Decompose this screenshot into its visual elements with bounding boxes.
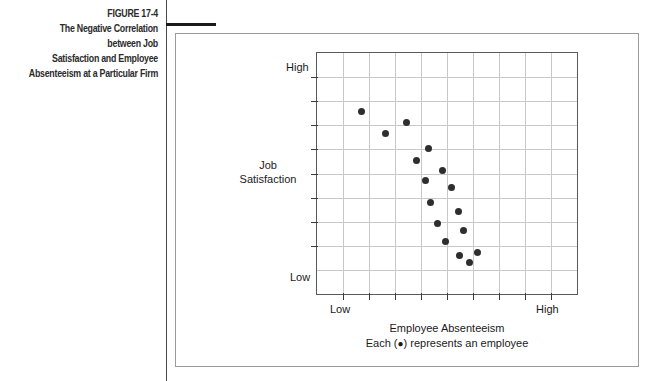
y-axis-tick (311, 198, 318, 199)
x-axis-tick (447, 293, 448, 300)
y-axis-tick (311, 246, 318, 247)
grid-line-horizontal (317, 174, 577, 175)
y-axis-title-line-1: Job (259, 159, 277, 171)
y-axis-tick (311, 125, 318, 126)
grid-line-horizontal (317, 198, 577, 199)
legend-suffix: ) represents an employee (404, 337, 529, 349)
scatter-point (358, 108, 365, 115)
scatter-point (413, 157, 420, 164)
y-axis-high-label: High (286, 61, 309, 73)
y-axis-low-label: Low (290, 271, 310, 283)
y-axis-tick (311, 101, 318, 102)
scatter-point (434, 220, 441, 227)
figure-number: FIGURE 17-4 (25, 6, 158, 21)
x-axis-title: Employee Absenteeism (316, 322, 578, 334)
y-axis-tick (311, 222, 318, 223)
scatter-point (422, 177, 429, 184)
grid-line-horizontal (317, 270, 577, 271)
legend-prefix: Each ( (366, 337, 398, 349)
scatter-point (460, 227, 467, 234)
grid-line-horizontal (317, 125, 577, 126)
grid-line-horizontal (317, 222, 577, 223)
figure-caption: FIGURE 17-4 The Negative Correlation bet… (25, 6, 158, 81)
figure-title-line-2: Satisfaction and Employee (25, 51, 158, 66)
x-axis-tick (551, 293, 552, 300)
grid-line-horizontal (317, 246, 577, 247)
scatter-point (456, 252, 463, 259)
grid-line-horizontal (317, 101, 577, 102)
y-axis-tick (311, 174, 318, 175)
grid-line-horizontal (317, 149, 577, 150)
scatter-point (439, 167, 446, 174)
x-axis-tick (473, 293, 474, 300)
scatter-point (382, 130, 389, 137)
x-axis-tick (421, 293, 422, 300)
x-axis-tick (369, 293, 370, 300)
scatter-point (427, 199, 434, 206)
y-axis-title: Job Satisfaction (229, 158, 307, 186)
figure-page: FIGURE 17-4 The Negative Correlation bet… (0, 0, 666, 381)
scatter-point (425, 145, 432, 152)
grid-line-horizontal (317, 77, 577, 78)
y-axis-tick (311, 149, 318, 150)
x-axis-high-label: High (536, 303, 559, 315)
x-axis-tick (525, 293, 526, 300)
scatter-point (455, 208, 462, 215)
plot-legend: Each (●) represents an employee (316, 337, 578, 349)
figure-title-line-1: The Negative Correlation between Job (25, 21, 158, 51)
x-axis-tick (343, 293, 344, 300)
x-axis-tick (395, 293, 396, 300)
scatter-plot (316, 52, 578, 295)
scatter-point (448, 184, 455, 191)
figure-title-line-3: Absenteeism at a Particular Firm (25, 66, 158, 81)
scatter-point (474, 249, 481, 256)
x-axis-low-label: Low (330, 303, 350, 315)
scatter-point (442, 238, 449, 245)
y-axis-title-line-2: Satisfaction (240, 173, 297, 185)
caption-vertical-rule (166, 0, 167, 381)
caption-horizontal-rule (166, 23, 216, 26)
x-axis-tick (499, 293, 500, 300)
y-axis-tick (311, 77, 318, 78)
